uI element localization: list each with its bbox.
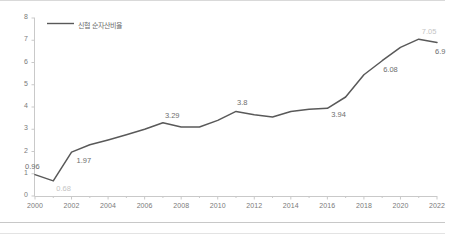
x-tick-label: 2008 [166, 202, 196, 209]
x-tick-label: 2022 [422, 202, 450, 209]
data-label-2021: 7.05 [422, 27, 437, 36]
x-tick-label: 2014 [276, 202, 306, 209]
data-label-2016: 3.94 [331, 110, 346, 119]
x-tick-label: 2016 [312, 202, 342, 209]
x-tick-label: 2000 [20, 202, 50, 209]
y-tick-label: 7 [12, 35, 28, 42]
x-tick-label: 2004 [93, 202, 123, 209]
data-label-2000: 0.96 [25, 162, 40, 171]
data-label-2001: 0.68 [56, 184, 71, 193]
data-label-2011: 3.8 [237, 98, 247, 107]
x-tick-label: 2012 [239, 202, 269, 209]
y-tick-label: 3 [12, 124, 28, 131]
data-label-2002: 1.97 [77, 156, 92, 165]
x-tick-label: 2002 [57, 202, 87, 209]
x-tick-label: 2020 [385, 202, 415, 209]
y-tick-label: 0 [12, 191, 28, 198]
bottom-divider [0, 222, 445, 223]
data-label-2022: 6.9 [435, 47, 445, 56]
legend-label-0: 신협 순자산비율 [78, 20, 122, 30]
y-tick-label: 5 [12, 80, 28, 87]
bottom-divider-secondary [0, 233, 445, 234]
data-label-2007: 3.29 [165, 111, 180, 120]
x-tick-label: 2006 [130, 202, 160, 209]
data-label-2019: 6.08 [383, 65, 398, 74]
x-tick-label: 2010 [203, 202, 233, 209]
series-line-신협-순자산비율 [35, 39, 437, 181]
y-tick-label: 2 [12, 147, 28, 154]
y-tick-label: 8 [12, 13, 28, 20]
y-tick-label: 6 [12, 58, 28, 65]
x-tick-label: 2018 [349, 202, 379, 209]
y-tick-label: 4 [12, 102, 28, 109]
